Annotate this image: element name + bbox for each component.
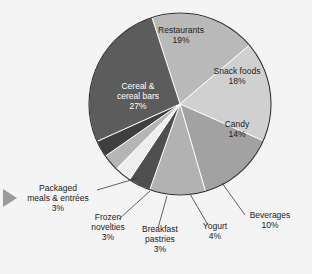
slice-label-beverages-pct: 10%	[238, 220, 302, 230]
slice-label-restaurants-pct: 19%	[140, 35, 222, 45]
slice-label-restaurants: Restaurants 19%	[140, 25, 222, 45]
slice-label-cereal-bars-text1: Cereal &	[121, 81, 154, 91]
slice-label-packaged-meals-text1: Packaged	[39, 183, 77, 193]
slice-label-beverages: Beverages 10%	[238, 210, 302, 230]
slice-label-snack-foods-pct: 18%	[198, 76, 276, 86]
play-triangle-icon	[3, 189, 17, 207]
slice-label-yogurt-text: Yogurt	[203, 221, 227, 231]
slice-label-breakfast-pastries: Breakfast pastries 3%	[129, 224, 191, 254]
slice-label-restaurants-text: Restaurants	[158, 25, 204, 35]
slice-label-cereal-bars-pct: 27%	[98, 101, 178, 111]
slice-label-breakfast-pastries-pct: 3%	[129, 244, 191, 254]
slice-label-candy-pct: 14%	[206, 129, 268, 139]
leader-line-packaged-meals	[97, 178, 138, 190]
slice-label-beverages-text: Beverages	[250, 210, 291, 220]
slice-label-snack-foods: Snack foods 18%	[198, 66, 276, 86]
slice-label-packaged-meals: Packaged meals & entrées 3%	[16, 183, 100, 213]
slice-label-breakfast-pastries-text1: Breakfast	[142, 224, 178, 234]
pie-chart-figure: Restaurants 19% Snack foods 18% Candy 14…	[0, 0, 312, 274]
slice-label-yogurt-pct: 4%	[190, 231, 240, 241]
slice-label-packaged-meals-text2: meals & entrées	[16, 193, 100, 203]
slice-label-frozen-novelties-text1: Frozen	[95, 212, 121, 222]
slice-label-yogurt: Yogurt 4%	[190, 221, 240, 241]
slice-label-cereal-bars-text2: cereal bars	[98, 91, 178, 101]
slice-label-snack-foods-text: Snack foods	[214, 66, 261, 76]
slice-label-candy: Candy 14%	[206, 119, 268, 139]
slice-label-cereal-bars: Cereal & cereal bars 27%	[98, 81, 178, 111]
slice-label-candy-text: Candy	[225, 119, 250, 129]
slice-label-breakfast-pastries-text2: pastries	[129, 234, 191, 244]
